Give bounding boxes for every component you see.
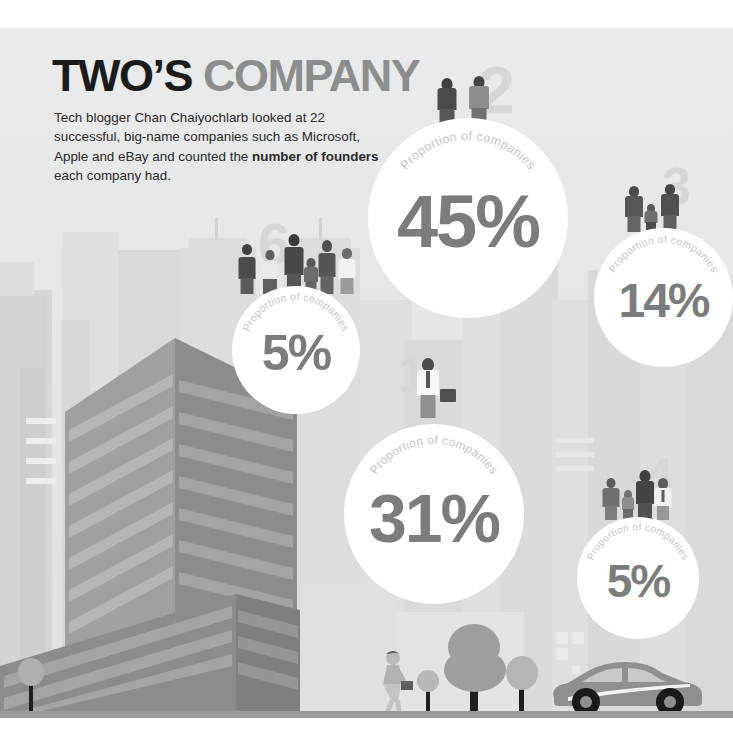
title-word-twos: TWO’S [52,50,192,101]
people-group-1 [408,356,460,418]
torso [603,488,620,507]
bg-window-row-2 [556,452,594,457]
legs [628,216,641,232]
bubble-founders-4[interactable]: 5% Proportion of companies [577,517,699,639]
torso [319,253,336,277]
bg-window-sq-2 [572,632,584,644]
tree-crown-left [18,658,44,686]
svg-text:Proportion of companies: Proportion of companies [398,129,539,172]
tree-crown-small [417,670,439,692]
bg-window-row-3 [556,466,594,471]
tree-crown-mid [506,656,538,690]
people-group-6 [236,232,340,294]
arc-text: Proportion of companies [367,433,501,477]
intro-line-1: Tech blogger Chan Chaiyochlarb looked at [54,110,306,125]
bg-slot-4 [26,478,56,484]
briefcase-icon [440,389,456,402]
necktie [426,371,430,388]
head [607,478,616,488]
infographic-canvas: 2 6 3 1 4 [0,0,733,752]
legs [241,278,254,294]
bg-slot-2 [26,438,56,444]
legs [605,506,617,520]
person-icon [652,478,674,520]
torso [438,88,457,110]
person-icon [316,240,338,294]
title-word-company: COMPANY [203,50,419,101]
bg-window-sq-1 [556,632,568,644]
person-icon [260,250,280,294]
people-group-3 [622,184,684,232]
bubble-founders-2[interactable]: 45% Proportion of companies [368,118,568,318]
bubble-founders-6[interactable]: 5% Proportion of companies [232,286,360,414]
person-icon [658,184,682,232]
legs [341,278,354,294]
bubble-percent-value: 31% [369,484,499,552]
person-icon [600,478,622,520]
torso [661,194,679,216]
bubble-percent-value: 5% [262,328,330,378]
torso [339,259,356,279]
torso [263,261,278,280]
torso [625,196,643,217]
torso [469,86,489,109]
person-icon [414,358,442,418]
torso [239,257,256,279]
bg-twin-tower-left-mast [215,218,218,240]
head [322,240,332,252]
necktie [662,490,665,502]
head [242,244,252,255]
legs [657,506,669,520]
intro-bold-phrase: number of founders [252,149,378,164]
bottom-white-band [0,718,733,752]
bubble-percent-value: 5% [607,558,669,604]
bg-window-row-1 [556,438,594,443]
people-group-4 [600,470,672,520]
bg-slot-3 [26,458,56,464]
page-title: TWO’S COMPANY [52,50,419,102]
svg-text:Proportion of companies: Proportion of companies [367,433,501,477]
bg-slot-1 [26,418,56,424]
head [266,250,275,260]
bubble-percent-value: 14% [618,276,708,324]
person-icon [336,248,358,294]
bubble-percent-value: 45% [397,185,539,259]
torso [285,247,304,275]
top-white-band [0,0,733,28]
tree-crown-big-upper [448,624,500,670]
bubble-founders-1[interactable]: 31% Proportion of companies [344,424,524,604]
person-icon [236,244,258,294]
head [342,248,352,259]
car-illustration [548,658,708,716]
intro-tail: each company had. [54,168,171,183]
legs [421,395,436,418]
head [289,234,300,246]
pedestrian-figure [376,650,420,716]
arc-text: Proportion of companies [398,129,539,172]
bubble-founders-3[interactable]: 14% Proportion of companies [594,228,733,367]
intro-paragraph: Tech blogger Chan Chaiyochlarb looked at… [54,108,384,186]
